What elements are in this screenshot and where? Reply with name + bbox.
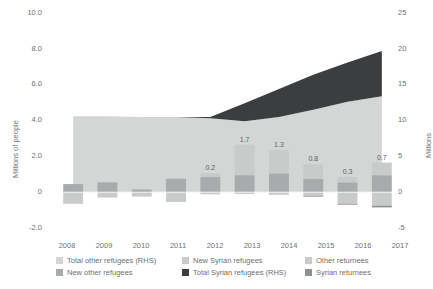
x-tick-2009: 2009	[87, 241, 121, 250]
x-tick-2016: 2016	[346, 241, 380, 250]
y-tick-left-1: 8.0	[12, 45, 42, 53]
x-tick-2013: 2013	[235, 241, 269, 250]
legend-item-new-syrian-refugees[interactable]: New Syrian refugees	[182, 256, 263, 265]
bar-data-label-2013: 1.7	[234, 136, 256, 144]
chart-svg	[56, 13, 399, 228]
bar-syrian-returnees	[303, 196, 323, 197]
x-tick-2014: 2014	[272, 241, 306, 250]
x-tick-2015: 2015	[309, 241, 343, 250]
y-tick-left-6: -2.0	[12, 224, 42, 232]
bar-new-other-refugees	[338, 182, 358, 192]
bar-other-returnees	[166, 192, 186, 202]
legend-label: Other returnees	[316, 256, 369, 265]
legend-item-syrian-returnees[interactable]: Syrian returnees	[305, 268, 371, 277]
legend-item-new-other-refugees[interactable]: New other refugees	[56, 268, 132, 277]
bar-new-other-refugees	[235, 175, 255, 192]
y-tick-right-5: 0	[398, 188, 422, 196]
x-tick-2010: 2010	[124, 241, 158, 250]
y-axis-title-right: Millions	[424, 133, 433, 158]
legend-swatch-icon	[182, 257, 189, 264]
bar-new-other-refugees	[98, 182, 118, 192]
bar-new-other-refugees	[166, 179, 186, 192]
legend-swatch-icon	[305, 257, 312, 264]
legend-item-total-other-refugees[interactable]: Total other refugees (RHS)	[56, 256, 156, 265]
y-tick-right-0: 25	[398, 9, 422, 17]
bar-data-label-2012: 0.2	[199, 164, 221, 172]
chart-legend: Total other refugees (RHS) New Syrian re…	[56, 256, 428, 286]
legend-item-total-syrian-refugees[interactable]: Total Syrian refugees (RHS)	[182, 268, 286, 277]
x-tick-2008: 2008	[50, 241, 84, 250]
bar-other-returnees	[98, 192, 118, 197]
legend-item-other-returnees[interactable]: Other returnees	[305, 256, 369, 265]
x-tick-2011: 2011	[161, 241, 195, 250]
bar-other-returnees	[63, 192, 83, 204]
bar-new-syrian-refugees	[269, 150, 289, 173]
y-axis-title-left: Millions of people	[11, 120, 20, 178]
bar-new-other-refugees	[269, 173, 289, 192]
y-tick-left-0: 10.0	[12, 9, 42, 17]
bar-new-syrian-refugees	[372, 163, 392, 176]
bar-new-syrian-refugees	[200, 173, 220, 177]
y-tick-left-4: 2.0	[12, 152, 42, 160]
x-tick-2017: 2017	[383, 241, 417, 250]
bar-new-other-refugees	[63, 184, 83, 192]
legend-label: Syrian returnees	[316, 268, 371, 277]
legend-swatch-icon	[56, 257, 63, 264]
bar-new-other-refugees	[132, 189, 152, 192]
bar-syrian-returnees	[372, 206, 392, 208]
bar-other-returnees	[269, 192, 289, 195]
bar-syrian-returnees	[338, 204, 358, 205]
bar-other-returnees	[338, 192, 358, 204]
legend-label: New other refugees	[67, 268, 132, 277]
bar-new-other-refugees	[200, 177, 220, 192]
y-tick-left-2: 6.0	[12, 80, 42, 88]
y-tick-right-2: 15	[398, 80, 422, 88]
bar-new-other-refugees	[372, 175, 392, 192]
bar-other-returnees	[303, 192, 323, 196]
bar-data-label-2015: 0.8	[302, 155, 324, 163]
legend-swatch-icon	[182, 269, 189, 276]
bar-new-syrian-refugees	[338, 177, 358, 182]
y-tick-right-6: -5	[398, 224, 422, 232]
y-tick-right-4: 5	[398, 152, 422, 160]
plot-area	[56, 13, 399, 228]
bar-new-other-refugees	[303, 179, 323, 192]
bar-data-label-2016: 0.3	[337, 168, 359, 176]
y-tick-right-3: 10	[398, 116, 422, 124]
y-tick-right-1: 20	[398, 45, 422, 53]
legend-label: New Syrian refugees	[193, 256, 263, 265]
y-tick-left-3: 4.0	[12, 116, 42, 124]
chart-container: Millions of people Millions 10.0 8.0 6.0…	[0, 0, 433, 289]
bar-other-returnees	[372, 192, 392, 205]
bar-other-returnees	[132, 192, 152, 196]
bar-data-label-2017: 0.7	[371, 154, 393, 162]
legend-swatch-icon	[305, 269, 312, 276]
legend-swatch-icon	[56, 269, 63, 276]
bar-new-syrian-refugees	[303, 164, 323, 178]
legend-label: Total Syrian refugees (RHS)	[193, 268, 286, 277]
bar-new-syrian-refugees	[235, 145, 255, 175]
bar-data-label-2014: 1.3	[268, 141, 290, 149]
y-tick-left-5: 0	[12, 188, 42, 196]
x-tick-2012: 2012	[198, 241, 232, 250]
legend-label: Total other refugees (RHS)	[67, 256, 156, 265]
